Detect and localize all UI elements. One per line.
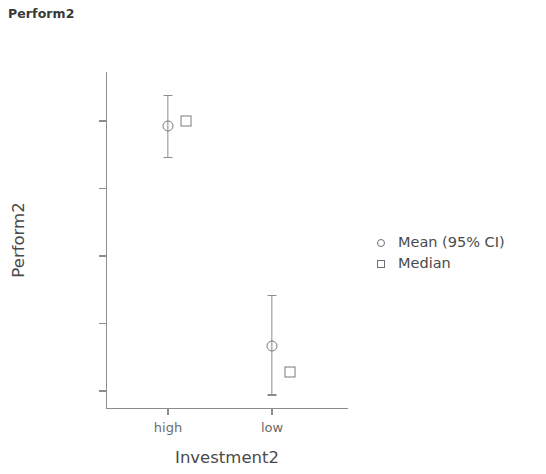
y-tick-mark	[99, 255, 106, 256]
median-marker-square-icon	[285, 367, 296, 378]
error-bar-cap	[164, 95, 173, 96]
chart-canvas: Perform2 6065707580 highlow Perform2 Inv…	[0, 0, 546, 474]
chart-legend: Mean (95% CI) Median	[372, 232, 505, 274]
circle-open-icon	[372, 232, 398, 253]
legend-item-mean: Mean (95% CI)	[372, 232, 505, 253]
legend-item-label: Mean (95% CI)	[398, 235, 505, 250]
x-tick-label: low	[261, 420, 283, 435]
y-tick-mark	[99, 188, 106, 189]
x-tick-mark	[271, 408, 272, 415]
x-tick-label: high	[154, 420, 182, 435]
y-axis-label: Perform2	[9, 202, 28, 277]
x-axis-line	[106, 408, 348, 409]
x-tick-mark	[167, 408, 168, 415]
error-bar-cap	[268, 394, 277, 395]
error-bar-cap	[164, 157, 173, 158]
y-tick-mark	[99, 390, 106, 391]
legend-item-median: Median	[372, 253, 505, 274]
y-tick-mark	[99, 120, 106, 121]
error-bar-cap	[268, 295, 277, 296]
mean-marker-circle-icon	[267, 341, 278, 352]
y-tick-mark	[99, 323, 106, 324]
median-marker-square-icon	[181, 116, 192, 127]
chart-title: Perform2	[8, 6, 75, 21]
x-axis-label: Investment2	[175, 448, 279, 467]
legend-item-label: Median	[398, 256, 451, 271]
y-axis-line	[106, 72, 107, 409]
square-open-icon	[372, 253, 398, 274]
mean-marker-circle-icon	[163, 121, 174, 132]
